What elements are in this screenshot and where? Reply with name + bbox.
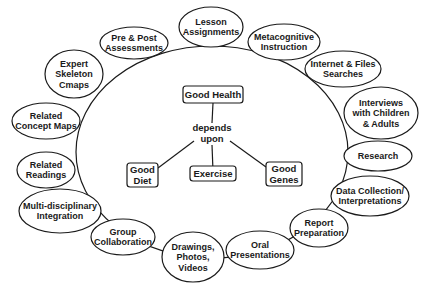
linking-phrase: dependsupon <box>192 122 231 144</box>
node-label: Pre & PostAssessments <box>105 33 163 54</box>
node-label: Research <box>358 151 399 161</box>
outer-nodes: Pre & PostAssessmentsLessonAssignmentsMe… <box>12 7 418 282</box>
node-label: RelatedReadings <box>26 160 67 181</box>
node-label: ExpertSkeletonCmaps <box>55 59 93 90</box>
node-expert-skeleton-cmaps: ExpertSkeletonCmaps <box>45 50 103 98</box>
node-metacognitive-instruction: MetacognitiveInstruction <box>248 24 320 60</box>
node-data-collection: Data Collection/Interpretations <box>331 176 409 216</box>
node-label: MetacognitiveInstruction <box>254 32 314 53</box>
node-label: Data Collection/Interpretations <box>336 186 405 207</box>
node-oral-presentations: OralPresentations <box>226 231 294 269</box>
node-interviews: Interviewswith Children& Adults <box>344 87 418 139</box>
concept-map-diagram: Pre & PostAssessmentsLessonAssignmentsMe… <box>0 0 423 292</box>
link-line <box>230 141 266 167</box>
inner-concept-map: Good HealthdependsuponGoodDietExerciseGo… <box>127 86 302 187</box>
concept-label: GoodDiet <box>130 164 155 186</box>
concept-label: GoodGenes <box>269 163 298 185</box>
node-related-concept-maps: RelatedConcept Maps <box>12 103 80 139</box>
concept-good-diet: GoodDiet <box>127 163 158 187</box>
link-line <box>158 141 194 168</box>
node-report-preparation: ReportPreparation <box>290 209 348 247</box>
node-internet-files-searches: Internet & FilesSearches <box>305 51 381 87</box>
node-pre-post-assessments: Pre & PostAssessments <box>100 27 168 59</box>
concept-exercise: Exercise <box>190 166 236 181</box>
concept-good-health: Good Health <box>183 86 243 103</box>
node-lesson-assignments: LessonAssignments <box>179 7 243 47</box>
concept-good-genes: GoodGenes <box>266 162 302 186</box>
node-research: Research <box>344 141 412 171</box>
concept-label: Exercise <box>193 168 232 179</box>
concept-label: Good Health <box>185 89 242 100</box>
node-group-collaboration: GroupCollaboration <box>91 219 155 255</box>
node-related-readings: RelatedReadings <box>17 152 75 188</box>
node-drawings-photos-videos: Drawings,Photos,Videos <box>162 232 224 282</box>
link-line <box>212 103 213 123</box>
node-multi-disciplinary-integration: Multi-disciplinaryIntegration <box>19 189 101 233</box>
